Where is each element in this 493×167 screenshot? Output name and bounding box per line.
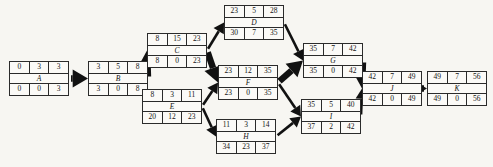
node-e-label: E xyxy=(143,102,201,111)
node-b-bottom-cell-0: 3 xyxy=(89,84,109,95)
node-b-top-row: 358 xyxy=(89,62,147,73)
node-j-bottom-cell-1: 0 xyxy=(383,94,403,105)
node-h-bottom-row: 342337 xyxy=(217,142,275,153)
node-f-top-cell-2: 35 xyxy=(258,66,277,77)
node-d-top-cell-2: 28 xyxy=(264,6,283,17)
node-f-label: F xyxy=(219,78,277,87)
edge-arrowhead xyxy=(73,70,88,88)
node-e-top-cell-2: 11 xyxy=(182,90,201,101)
node-e-bottom-cell-2: 23 xyxy=(182,112,201,123)
edge-c-to-d xyxy=(208,23,224,49)
node-a-bottom-cell-2: 3 xyxy=(49,84,68,95)
node-g-bottom-row: 35042 xyxy=(304,66,362,77)
node-d[interactable]: 23528D30735 xyxy=(224,5,284,40)
edge-f-to-g xyxy=(280,61,303,82)
node-k-top-row: 49756 xyxy=(428,72,486,83)
node-a-bottom-cell-1: 0 xyxy=(30,84,50,95)
node-a-label: A xyxy=(10,74,68,83)
node-a[interactable]: 033A003 xyxy=(9,61,69,96)
node-a-top-cell-0: 0 xyxy=(10,62,30,73)
node-f-bottom-row: 23035 xyxy=(219,88,277,99)
node-e[interactable]: 8311E201223 xyxy=(142,89,202,124)
node-i-bottom-cell-1: 2 xyxy=(322,122,342,133)
node-i-label-row: I xyxy=(302,111,360,122)
node-d-bottom-cell-2: 35 xyxy=(264,28,283,39)
edge-e-to-f xyxy=(203,83,218,105)
node-b-bottom-row: 308 xyxy=(89,84,147,95)
node-j-bottom-cell-0: 42 xyxy=(363,94,383,105)
edge-line xyxy=(285,24,299,51)
node-i-top-cell-0: 35 xyxy=(302,100,322,111)
edge-line xyxy=(203,108,212,127)
node-i-top-row: 35540 xyxy=(302,100,360,111)
node-g-bottom-cell-1: 0 xyxy=(324,66,344,77)
node-j-label-row: J xyxy=(363,83,421,94)
node-e-top-cell-0: 8 xyxy=(143,90,163,101)
node-i-bottom-cell-0: 37 xyxy=(302,122,322,133)
node-f-top-row: 231235 xyxy=(219,66,277,77)
node-k-label: K xyxy=(428,84,486,93)
node-e-label-row: E xyxy=(143,101,201,112)
node-j-top-row: 42749 xyxy=(363,72,421,83)
node-j-top-cell-2: 49 xyxy=(402,72,421,83)
node-e-top-cell-1: 3 xyxy=(163,90,183,101)
node-c[interactable]: 81523C8023 xyxy=(147,33,207,68)
node-g-top-cell-0: 35 xyxy=(304,44,324,55)
node-g-top-cell-1: 7 xyxy=(324,44,344,55)
node-b-top-cell-1: 5 xyxy=(109,62,129,73)
node-k-top-cell-0: 49 xyxy=(428,72,448,83)
node-j-label: J xyxy=(363,84,421,93)
edge-line xyxy=(203,91,212,105)
node-h-top-cell-1: 3 xyxy=(237,120,257,131)
node-h-label: H xyxy=(217,132,275,141)
edge-line xyxy=(208,52,213,68)
node-j[interactable]: 42749J42049 xyxy=(362,71,422,106)
node-f-label-row: F xyxy=(219,77,277,88)
node-g-bottom-cell-0: 35 xyxy=(304,66,324,77)
node-c-bottom-cell-0: 8 xyxy=(148,56,168,67)
node-d-bottom-cell-1: 7 xyxy=(245,28,265,39)
edge-f-to-i xyxy=(279,84,301,116)
node-e-top-row: 8311 xyxy=(143,90,201,101)
node-h[interactable]: 11314H342337 xyxy=(216,119,276,154)
node-c-top-row: 81523 xyxy=(148,34,206,45)
node-j-top-cell-0: 42 xyxy=(363,72,383,83)
node-k[interactable]: 49756K49056 xyxy=(427,71,487,106)
node-j-bottom-row: 42049 xyxy=(363,94,421,105)
node-i-bottom-cell-2: 42 xyxy=(341,122,360,133)
edge-d-to-g xyxy=(285,24,304,60)
node-f[interactable]: 231235F23035 xyxy=(218,65,278,100)
node-c-bottom-cell-2: 23 xyxy=(187,56,206,67)
node-h-top-cell-2: 14 xyxy=(256,120,275,131)
node-c-top-cell-0: 8 xyxy=(148,34,168,45)
node-h-bottom-cell-2: 37 xyxy=(256,142,275,153)
network-diagram-canvas: 033A003358B30881523C80238311E20122323528… xyxy=(0,0,493,167)
node-i[interactable]: 35540I37242 xyxy=(301,99,361,134)
node-g-top-row: 35742 xyxy=(304,44,362,55)
node-c-label-row: C xyxy=(148,45,206,56)
edge-line xyxy=(278,123,293,135)
node-b[interactable]: 358B308 xyxy=(88,61,148,96)
node-j-top-cell-1: 7 xyxy=(383,72,403,83)
node-f-bottom-cell-0: 23 xyxy=(219,88,239,99)
node-a-label-row: A xyxy=(10,73,68,84)
node-h-bottom-cell-0: 34 xyxy=(217,142,237,153)
node-d-bottom-row: 30735 xyxy=(225,28,283,39)
node-k-bottom-cell-1: 0 xyxy=(448,94,468,105)
node-b-top-cell-0: 3 xyxy=(89,62,109,73)
node-k-top-cell-1: 7 xyxy=(448,72,468,83)
node-d-top-row: 23528 xyxy=(225,6,283,17)
node-i-top-cell-1: 5 xyxy=(322,100,342,111)
node-b-bottom-cell-1: 0 xyxy=(109,84,129,95)
node-g[interactable]: 35742G35042 xyxy=(303,43,363,78)
node-b-label: B xyxy=(89,74,147,83)
node-c-top-cell-1: 15 xyxy=(168,34,188,45)
node-b-label-row: B xyxy=(89,73,147,84)
node-d-label-row: D xyxy=(225,17,283,28)
node-j-bottom-cell-2: 49 xyxy=(402,94,421,105)
node-e-bottom-cell-1: 12 xyxy=(163,112,183,123)
node-h-label-row: H xyxy=(217,131,275,142)
node-h-top-cell-0: 11 xyxy=(217,120,237,131)
node-f-top-cell-1: 12 xyxy=(239,66,259,77)
node-c-label: C xyxy=(148,46,206,55)
